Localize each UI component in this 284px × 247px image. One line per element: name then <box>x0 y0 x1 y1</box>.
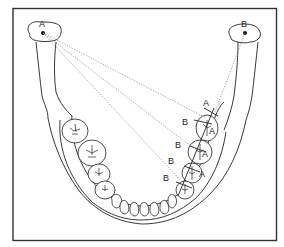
label-A-4: A <box>199 169 205 179</box>
label-A-1: A <box>203 98 209 108</box>
mandible-diagram: A B A A A A B B B B <box>0 0 284 247</box>
label-condyle-B: B <box>241 19 247 29</box>
label-B-3: B <box>168 156 174 166</box>
reference-lines <box>43 33 245 186</box>
left-molars <box>62 119 115 199</box>
label-A-3: A <box>202 149 208 159</box>
anterior-teeth <box>112 194 177 216</box>
label-B-2: B <box>175 140 181 150</box>
label-B-4: B <box>163 173 169 183</box>
label-A-2: A <box>209 126 215 136</box>
label-condyle-A: A <box>39 19 45 29</box>
label-B-1: B <box>182 117 188 127</box>
mandible-outline <box>28 22 260 224</box>
